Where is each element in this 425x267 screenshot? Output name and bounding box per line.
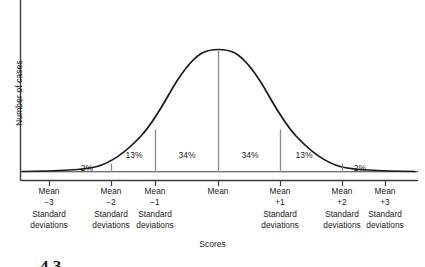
region-label-13pct-right: 13% bbox=[288, 150, 320, 160]
region-label-2pct-right: 2% bbox=[345, 163, 375, 173]
x-tick-label-plus-3sd: Mean +3 Standard deviations bbox=[352, 186, 418, 232]
region-label-13pct-left: 13% bbox=[118, 150, 150, 160]
tick-line-mean: Mean bbox=[122, 186, 188, 197]
tick-line-mean: Mean bbox=[185, 186, 251, 197]
region-label-2pct-left: 2% bbox=[72, 163, 102, 173]
tick-line-sd: −1 bbox=[122, 197, 188, 208]
tick-line-std: Standard bbox=[247, 209, 313, 220]
tick-line-dev: deviations bbox=[16, 220, 82, 231]
tick-line-sd: −3 bbox=[16, 197, 82, 208]
tick-line-sd: +3 bbox=[352, 197, 418, 208]
tick-line-std: Standard bbox=[16, 209, 82, 220]
tick-line-mean: Mean bbox=[16, 186, 82, 197]
tick-line-sd: +1 bbox=[247, 197, 313, 208]
figure-number-stub: 4.3 bbox=[40, 258, 61, 267]
normal-distribution-figure: Number of cases Scores 2% 13% 34% 34% 13… bbox=[0, 0, 425, 267]
tick-line-dev: deviations bbox=[352, 220, 418, 231]
tick-line-mean: Mean bbox=[247, 186, 313, 197]
x-tick-label-minus-1sd: Mean −1 Standard deviations bbox=[122, 186, 188, 232]
tick-line-mean: Mean bbox=[352, 186, 418, 197]
x-axis-title: Scores bbox=[0, 239, 425, 249]
tick-line-dev: deviations bbox=[247, 220, 313, 231]
region-label-34pct-right: 34% bbox=[233, 150, 267, 160]
x-tick-label-mean: Mean bbox=[185, 186, 251, 197]
tick-line-dev: deviations bbox=[122, 220, 188, 231]
tick-line-std: Standard bbox=[352, 209, 418, 220]
x-tick-label-plus-1sd: Mean +1 Standard deviations bbox=[247, 186, 313, 232]
x-tick-label-minus-3sd: Mean −3 Standard deviations bbox=[16, 186, 82, 232]
region-label-34pct-left: 34% bbox=[170, 150, 204, 160]
tick-line-std: Standard bbox=[122, 209, 188, 220]
y-axis-title: Number of cases bbox=[14, 43, 24, 143]
